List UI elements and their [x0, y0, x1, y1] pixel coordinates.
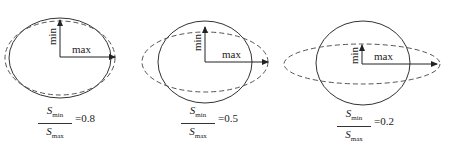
panel-1: min max: [5, 18, 115, 98]
fraction-bar: [181, 123, 215, 124]
ratio-value: =0.8: [75, 112, 95, 124]
max-label: max: [222, 48, 241, 60]
fraction-bar: [337, 126, 371, 127]
min-label: min: [191, 33, 203, 51]
panel-3: min max: [284, 21, 440, 105]
min-label: min: [348, 46, 360, 64]
panel-2: min max: [142, 21, 268, 103]
fraction-bar: [38, 123, 72, 124]
ratio-value: =0.5: [218, 112, 238, 124]
max-label: max: [72, 43, 91, 55]
denominator: Smax: [337, 128, 371, 144]
ratio-formula-1: Smin Smax =0.8: [38, 104, 72, 143]
max-label: max: [374, 50, 393, 62]
ratio-value: =0.2: [374, 115, 394, 127]
denominator: Smax: [181, 125, 215, 143]
denominator: Smax: [38, 125, 72, 143]
numerator: Smin: [181, 104, 215, 122]
solid-circle: [316, 21, 410, 105]
numerator: Smin: [337, 107, 371, 125]
numerator: Smin: [38, 104, 72, 122]
ratio-formula-3: Smin Smax =0.2: [337, 107, 371, 144]
ratio-formula-2: Smin Smax =0.5: [181, 104, 215, 143]
min-label: min: [46, 27, 58, 45]
